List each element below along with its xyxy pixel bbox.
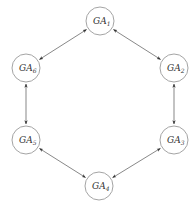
edge-ga4-ga5 (40, 149, 86, 178)
node-ga6: GA6 (12, 54, 40, 82)
edge-ga1-ga2 (114, 30, 161, 60)
node-ga3: GA3 (160, 126, 188, 154)
ring-topology-diagram: GA1GA2GA3GA4GA5GA6 (0, 0, 196, 212)
node-ga2: GA2 (160, 54, 188, 82)
edge-ga3-ga4 (113, 148, 161, 177)
nodes: GA1GA2GA3GA4GA5GA6 (12, 7, 188, 200)
node-ga5: GA5 (12, 126, 40, 154)
node-ga1: GA1 (86, 7, 114, 35)
edges (26, 30, 174, 178)
edge-ga6-ga1 (40, 30, 87, 60)
node-ga4: GA4 (85, 172, 113, 200)
